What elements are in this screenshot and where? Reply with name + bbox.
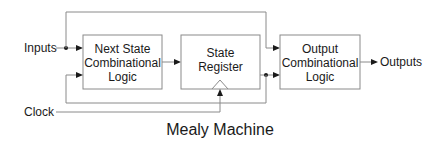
state-register-line-2: Register: [198, 60, 243, 74]
mealy-machine-diagram: Inputs Next State Combinational Logic St…: [0, 0, 437, 147]
inputs-to-output-logic-arrow: [273, 45, 280, 51]
next-state-logic-block: Next State Combinational Logic: [83, 35, 162, 89]
clock-to-register-arrow: [217, 89, 223, 96]
state-register-line-1: State: [206, 46, 234, 60]
next-state-logic-line-3: Logic: [108, 70, 137, 84]
next-state-logic-line-1: Next State: [94, 42, 150, 56]
output-logic-line-1: Output: [302, 42, 339, 56]
output-logic-line-3: Logic: [306, 70, 335, 84]
state-register-block: State Register: [181, 35, 260, 89]
inputs-to-next-state-arrow: [76, 45, 83, 51]
clock-label: Clock: [24, 105, 55, 119]
next-state-logic-line-2: Combinational: [84, 56, 161, 70]
output-logic-line-2: Combinational: [282, 56, 359, 70]
outputs-label: Outputs: [380, 55, 422, 69]
output-logic-block: Output Combinational Logic: [280, 35, 360, 89]
register-to-output-logic-arrow: [273, 72, 280, 78]
feedback-to-next-state-arrow: [76, 72, 83, 78]
outputs-arrow: [371, 59, 378, 65]
inputs-label: Inputs: [24, 41, 57, 55]
next-state-to-register-arrow: [174, 59, 181, 65]
diagram-title: Mealy Machine: [166, 121, 274, 138]
